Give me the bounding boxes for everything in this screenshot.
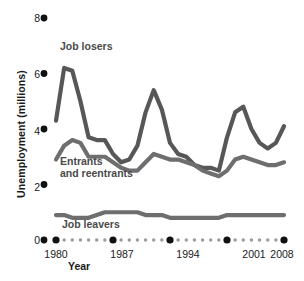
x-minor-dot-1992 [152,238,155,241]
x-minor-dot-1999 [209,238,212,241]
y-tick-dot-0 [41,237,48,244]
x-minor-dot-2006 [266,238,269,241]
x-minor-dot-1986 [103,238,106,241]
y-tick-dot-6 [41,70,48,77]
x-tick-label-1987: 1987 [102,248,142,260]
series-label-entrants-2: and reentrants [60,167,133,180]
x-minor-dot-1997 [193,238,196,241]
x-axis-title: Year [68,260,90,272]
x-minor-dot-2004 [250,238,253,241]
x-minor-dot-1996 [185,238,188,241]
x-minor-dot-2007 [274,238,277,241]
series-label-entrants: Entrants [60,155,103,168]
x-minor-dot-1985 [95,238,98,241]
x-minor-dot-1984 [87,238,90,241]
x-minor-dot-2005 [258,238,261,241]
x-tick-label-1980: 1980 [36,248,76,260]
x-minor-dot-1988 [119,238,122,241]
unemployment-chart: Unemployment (millions) 8 6 4 2 0 1980 1… [0,0,304,281]
y-tick-dot-8 [41,15,48,22]
series-line-job-leavers [56,212,284,218]
x-tick-dot-2008 [280,236,287,243]
x-minor-dot-1982 [71,238,74,241]
y-tick-dot-4 [41,126,48,133]
plot-area [0,0,304,281]
x-minor-dot-1981 [62,238,65,241]
x-minor-dot-1989 [128,238,131,241]
x-minor-dot-2003 [242,238,245,241]
x-minor-dot-1991 [144,238,147,241]
x-minor-dot-1990 [136,238,139,241]
x-tick-dot-1987 [109,236,116,243]
x-tick-dot-1994 [166,236,173,243]
x-tick-dot-2001 [223,236,230,243]
x-minor-dot-1998 [201,238,204,241]
x-tick-dot-1980 [52,236,59,243]
x-minor-dot-1995 [176,238,179,241]
x-minor-dot-2000 [217,238,220,241]
y-tick-dot-2 [41,181,48,188]
x-minor-dot-1983 [79,238,82,241]
x-tick-label-2008: 2008 [262,248,302,260]
series-label-job-losers: Job losers [60,40,113,53]
series-label-job-leavers: Job leavers [62,218,120,231]
x-minor-dot-1993 [160,238,163,241]
x-minor-dot-2002 [233,238,236,241]
x-tick-label-1994: 1994 [168,248,208,260]
